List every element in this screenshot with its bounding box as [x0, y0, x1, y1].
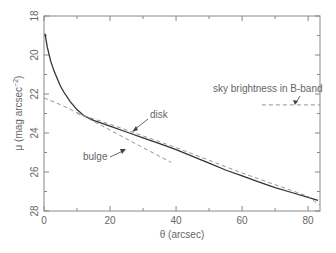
- axis-ticks: [44, 16, 320, 211]
- x-tick-label: 60: [237, 215, 249, 226]
- annotation-sky: sky brightness in B-band: [213, 83, 323, 94]
- surface-brightness-chart: 020406080 182022242628 disk bulge sky br…: [0, 0, 336, 253]
- data-series: [44, 34, 320, 206]
- bulge-arrow: [110, 151, 123, 157]
- annotation-bulge: bulge: [83, 151, 108, 162]
- y-tick-label: 22: [29, 88, 40, 100]
- series-bulge: [44, 98, 171, 162]
- y-tick-label: 26: [29, 166, 40, 178]
- y-tick-label: 18: [29, 10, 40, 22]
- x-tick-label: 80: [303, 215, 315, 226]
- plot-frame: [44, 16, 320, 211]
- x-tick-label: 40: [170, 215, 182, 226]
- y-tick-labels: 182022242628: [29, 10, 40, 217]
- annotation-disk: disk: [150, 109, 169, 120]
- disk-arrowhead-icon: [132, 126, 138, 132]
- y-axis-label: μ (mag arcsec−2): [12, 76, 24, 151]
- y-tick-label: 24: [29, 127, 40, 139]
- bulge-arrowhead-icon: [120, 149, 126, 154]
- x-tick-label: 20: [104, 215, 116, 226]
- y-tick-label: 28: [29, 205, 40, 217]
- series-observed-profile: [45, 34, 318, 201]
- x-axis-label: θ (arcsec): [160, 229, 204, 240]
- y-tick-label: 20: [29, 49, 40, 61]
- x-tick-label: 0: [41, 215, 47, 226]
- x-tick-labels: 020406080: [41, 215, 314, 226]
